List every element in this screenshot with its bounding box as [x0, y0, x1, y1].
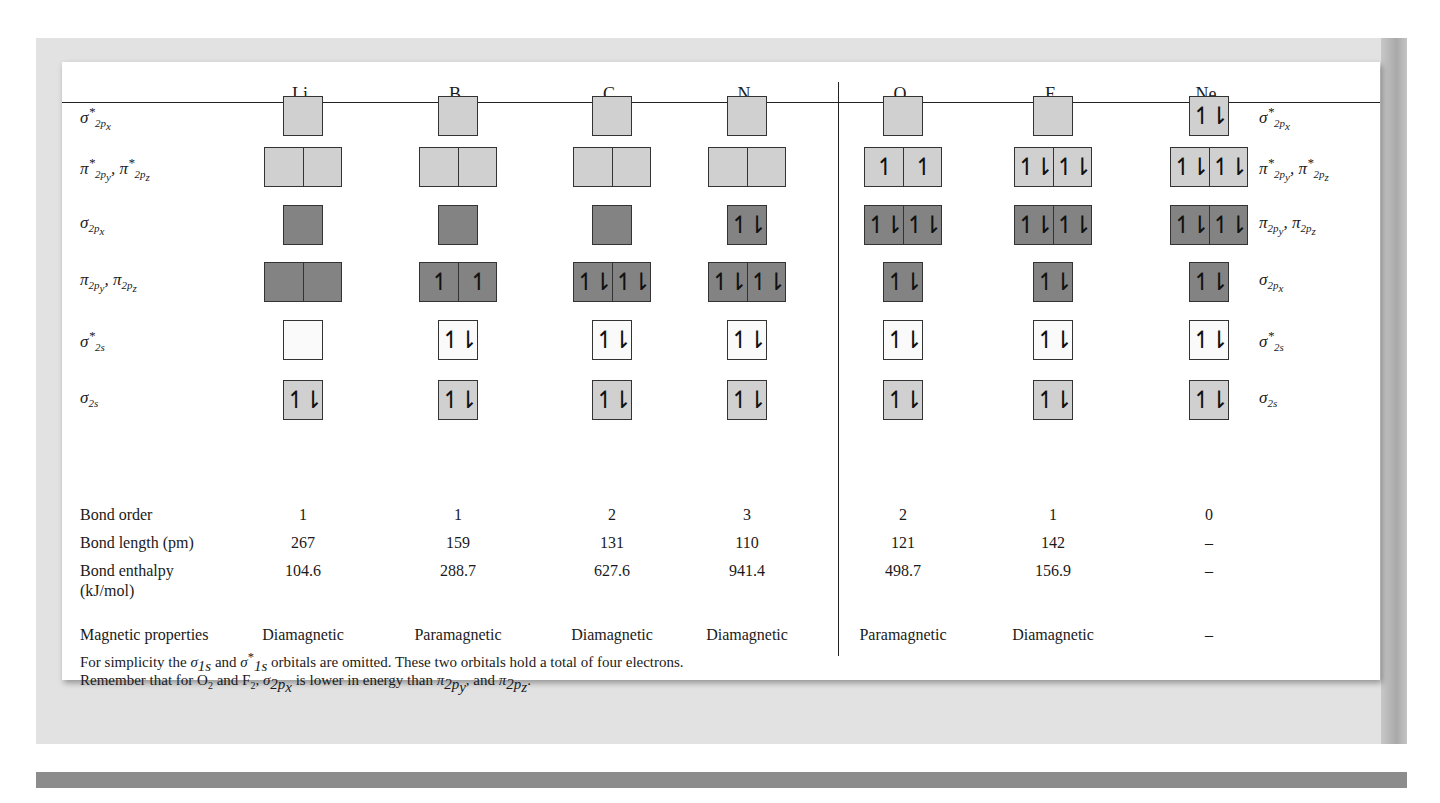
- orbital-box: ↿⇂↿⇂: [1014, 147, 1092, 187]
- note-text: , and: [466, 672, 499, 688]
- property-value: 3: [677, 506, 817, 524]
- note-text: orbitals are omitted. These two orbitals…: [267, 654, 683, 670]
- property-value: Diamagnetic: [542, 626, 682, 644]
- property-label: Bond enthalpy: [80, 562, 174, 580]
- property-value: 0: [1139, 506, 1279, 524]
- note-text: is lower in energy than: [292, 672, 437, 688]
- property-value: 1: [233, 506, 373, 524]
- orbital-box: ↿⇂: [592, 380, 632, 420]
- empty-orbital-slot: [439, 97, 477, 135]
- orbital-subscript: 2py: [95, 168, 111, 180]
- orbital-star: *: [88, 104, 95, 119]
- orbital-box: ↿⇂: [727, 380, 767, 420]
- property-value: 110: [677, 534, 817, 552]
- orbital-box: [727, 96, 767, 136]
- orbital-base: π: [1259, 213, 1268, 232]
- empty-orbital-slot: [728, 97, 766, 135]
- left-orbital-label: σ2s: [80, 388, 98, 409]
- orbital-box: ↿⇂: [1033, 262, 1073, 302]
- empty-orbital-slot: [420, 148, 459, 186]
- orbital-subsubscript: x: [106, 120, 111, 132]
- electron-pair-arrows-icon: ↿⇂: [593, 381, 631, 419]
- property-label-unit: (kJ/mol): [80, 582, 134, 600]
- electron-pair-arrows-icon: ↿⇂: [1190, 97, 1228, 135]
- orbital-subscript: 2s: [88, 397, 98, 409]
- orbital-box: [573, 147, 651, 187]
- orbital-symbol: σ2px: [80, 213, 104, 232]
- left-orbital-label: σ*2s: [80, 328, 105, 353]
- orbital-base: π: [80, 270, 89, 289]
- orbital-box: ↿⇂: [1189, 262, 1229, 302]
- empty-orbital-slot: [459, 148, 497, 186]
- orbital-subscript: 2px: [88, 222, 104, 234]
- orbital-box: [283, 205, 323, 245]
- orbital-subscript: 2py: [1274, 168, 1290, 180]
- orbital-box: ↿⇂: [727, 320, 767, 360]
- orbital-box: ↿⇂: [592, 320, 632, 360]
- electron-pair-arrows-icon: ↿⇂: [1190, 321, 1228, 359]
- empty-orbital-slot: [439, 206, 477, 244]
- orbital-subscript: 2px: [1267, 279, 1283, 291]
- right-orbital-label: σ*2px: [1259, 104, 1290, 132]
- orbital-box: [283, 96, 323, 136]
- orbital-subscript: 2px: [95, 117, 111, 129]
- empty-orbital-slot: [593, 206, 631, 244]
- right-orbital-label: σ2px: [1259, 270, 1283, 295]
- electron-pair-arrows-icon: ↿⇂: [728, 206, 766, 244]
- property-value: Diamagnetic: [983, 626, 1123, 644]
- electron-up-arrow-icon: ↿: [420, 263, 459, 301]
- electron-up-arrow-icon: ↿: [904, 148, 942, 186]
- comma: ,: [104, 270, 113, 289]
- orbital-symbol: σ2s: [1259, 388, 1277, 407]
- orbital-box: [438, 205, 478, 245]
- orbital-symbol: π2py: [80, 270, 104, 289]
- orbital-subscript: 2py: [89, 279, 105, 291]
- property-value: Paramagnetic: [833, 626, 973, 644]
- empty-orbital-slot: [593, 97, 631, 135]
- property-value: Diamagnetic: [677, 626, 817, 644]
- empty-orbital-slot: [1034, 97, 1072, 135]
- orbital-box: ↿↿: [419, 262, 497, 302]
- orbital-symbol: π2pz: [113, 270, 137, 289]
- orbital-symbol: π*2pz: [1298, 159, 1328, 178]
- property-value: 941.4: [677, 562, 817, 580]
- property-value: 104.6: [233, 562, 373, 580]
- electron-pair-arrows-icon: ↿⇂: [709, 263, 748, 301]
- electron-pair-arrows-icon: ↿⇂: [1015, 206, 1054, 244]
- orbital-subsubscript: z: [1324, 171, 1328, 183]
- orbital-subscript: 2pz: [121, 279, 136, 291]
- orbital-box: ↿⇂↿⇂: [1170, 147, 1248, 187]
- electron-pair-arrows-icon: ↿⇂: [1054, 148, 1092, 186]
- empty-orbital-slot: [304, 263, 342, 301]
- orbital-box: ↿⇂↿⇂: [1014, 205, 1092, 245]
- property-value: 2: [542, 506, 682, 524]
- orbital-subscript: 2py: [1268, 222, 1284, 234]
- electron-up-arrow-icon: ↿: [865, 148, 904, 186]
- property-label: Magnetic properties: [80, 626, 208, 644]
- empty-orbital-slot: [284, 206, 322, 244]
- orbital-box: ↿⇂: [438, 380, 478, 420]
- property-value: Diamagnetic: [233, 626, 373, 644]
- orbital-box: [419, 147, 497, 187]
- orbital-box: [883, 96, 923, 136]
- orbital-symbol: σ2px: [1259, 270, 1283, 289]
- frame-right-edge: [1381, 38, 1407, 744]
- orbital-box: ↿⇂: [727, 205, 767, 245]
- orbital-box: [592, 96, 632, 136]
- note-text: Remember that for O: [80, 672, 208, 688]
- electron-pair-arrows-icon: ↿⇂: [1034, 381, 1072, 419]
- orbital-subsubscript: x: [1278, 283, 1283, 295]
- orbital-box: ↿⇂: [883, 320, 923, 360]
- electron-pair-arrows-icon: ↿⇂: [613, 263, 651, 301]
- property-value: 156.9: [983, 562, 1123, 580]
- left-orbital-label: π2py, π2pz: [80, 270, 137, 295]
- subscript: x: [285, 679, 292, 695]
- property-value: –: [1139, 562, 1279, 580]
- orbital-symbol: σ*2s: [1259, 332, 1284, 351]
- orbital-base: π: [1259, 159, 1268, 178]
- electron-pair-arrows-icon: ↿⇂: [748, 263, 786, 301]
- sigma-symbol: σ: [190, 654, 197, 670]
- orbital-subscript: 2s: [1267, 397, 1277, 409]
- note-text: For simplicity the: [80, 654, 190, 670]
- electron-pair-arrows-icon: ↿⇂: [1054, 206, 1092, 244]
